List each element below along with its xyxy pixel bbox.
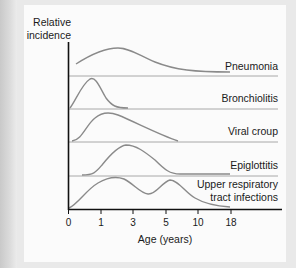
label-viral-croup: Viral croup [228,125,278,137]
x-tick-3: 3 [130,217,136,228]
y-axis-label-line2: incidence [27,29,72,41]
pneumonia-curve [76,48,230,72]
x-axis-label: Age (years) [138,233,192,245]
y-axis-label-line1: Relative [33,16,71,28]
bronchiolitis-curve [70,79,128,108]
epiglottitis-curve [82,145,230,175]
x-tick-18: 18 [225,217,237,228]
x-tick-1: 1 [98,217,104,228]
label-bronchiolitis: Bronchiolitis [221,92,278,104]
x-tick-10: 10 [192,217,204,228]
label-epiglottitis: Epiglottitis [230,159,278,171]
x-tick-5: 5 [163,217,169,228]
incidence-chart: Relative incidence Pneumonia Bronchiolit… [0,0,296,268]
label-pneumonia: Pneumonia [225,60,278,72]
viral-croup-curve [72,113,178,141]
label-urti-line2: tract infections [210,191,278,203]
label-urti-line1: Upper respiratory [197,178,279,190]
x-tick-0: 0 [66,217,72,228]
